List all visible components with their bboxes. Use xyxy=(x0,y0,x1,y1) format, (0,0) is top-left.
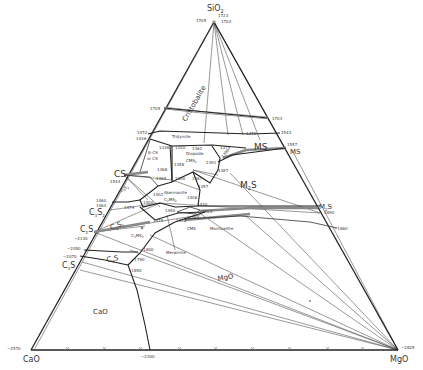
svg-text:1362: 1362 xyxy=(192,146,203,151)
label-ms-edge: MS xyxy=(290,148,301,156)
svg-text:~1790: ~1790 xyxy=(131,257,145,262)
label-diopside-formula: CMS2 xyxy=(186,158,197,164)
svg-text:~2130: ~2130 xyxy=(74,236,88,241)
label-tridymite: Tridymite xyxy=(171,134,191,139)
label-ms: MS xyxy=(254,142,268,152)
label-cs: CS xyxy=(114,169,126,179)
label-monticellite: Monticellite xyxy=(210,226,234,231)
svg-text:1387: 1387 xyxy=(218,168,229,173)
svg-text:1498: 1498 xyxy=(176,218,187,223)
label-c3s: C3S xyxy=(62,261,75,271)
label-cao-field: CaO xyxy=(93,308,108,316)
vertex-labels: SiO2 CaO MgO xyxy=(23,4,408,364)
svg-text:~1800: ~1800 xyxy=(140,247,154,252)
svg-text:1705: 1705 xyxy=(196,18,207,23)
label-cms: CMS xyxy=(187,226,196,231)
svg-text:1543: 1543 xyxy=(281,130,292,135)
svg-text:1705: 1705 xyxy=(150,106,161,111)
label-akermanite: Akermanite xyxy=(164,190,188,195)
svg-text:1436: 1436 xyxy=(136,136,147,141)
svg-text:1368: 1368 xyxy=(157,167,168,172)
svg-text:1470: 1470 xyxy=(137,130,148,135)
svg-text:~2825: ~2825 xyxy=(401,345,415,350)
vertex-temperatures: 1705 1723 1703 ~2570 ~2825 ~2300 xyxy=(7,13,415,359)
label-diopside: Diopside xyxy=(186,151,204,156)
svg-text:1357: 1357 xyxy=(198,184,209,189)
svg-text:~2300: ~2300 xyxy=(141,354,155,359)
vertex-mgo: MgO xyxy=(390,355,408,364)
svg-text:1464: 1464 xyxy=(96,203,107,208)
svg-text:1367: 1367 xyxy=(192,176,203,181)
svg-text:1703: 1703 xyxy=(272,116,283,121)
svg-text:~2570: ~2570 xyxy=(7,346,21,351)
svg-text:~2070: ~2070 xyxy=(63,254,77,259)
svg-text:1544: 1544 xyxy=(110,179,121,184)
label-c3s2: C3S2 xyxy=(89,208,105,218)
svg-text:1490: 1490 xyxy=(165,208,176,213)
svg-text:1479: 1479 xyxy=(124,205,135,210)
label-c2s-field: C2S xyxy=(109,220,124,233)
svg-text:~1860: ~1860 xyxy=(334,226,348,231)
triangle-edges xyxy=(31,22,398,350)
svg-text:1400: 1400 xyxy=(143,200,154,205)
label-c3ms2: C3MS2 xyxy=(131,233,144,239)
label-c3s2-field: C3S2 xyxy=(119,184,130,194)
svg-text:1358: 1358 xyxy=(174,162,185,167)
svg-text:1460: 1460 xyxy=(189,215,200,220)
svg-text:1703: 1703 xyxy=(221,19,232,24)
svg-text:1406: 1406 xyxy=(187,195,198,200)
base-tick-marks xyxy=(66,347,364,349)
label-c2s: C2S xyxy=(80,225,93,235)
ternary-phase-diagram: SiO2 CaO MgO 1705 1723 1703 ~2570 ~2825 … xyxy=(0,0,423,370)
label-beta-cs: β–CS xyxy=(148,150,158,155)
svg-text:1470: 1470 xyxy=(246,131,257,136)
svg-text:~2050: ~2050 xyxy=(67,246,81,251)
tie-lines-mgo xyxy=(80,150,398,350)
label-akermanite-formula: C2MS2 xyxy=(164,197,177,203)
svg-text:1575: 1575 xyxy=(153,218,164,223)
svg-text:1723: 1723 xyxy=(218,13,229,18)
svg-text:1391: 1391 xyxy=(206,160,217,165)
svg-text:1320: 1320 xyxy=(175,145,186,150)
phase-field-labels: Cristobalite Tridymite MS M2S Diopside C… xyxy=(93,84,268,316)
svg-text:1402: 1402 xyxy=(153,192,164,197)
label-merwinite: Merwinite xyxy=(166,250,186,255)
svg-text:1430: 1430 xyxy=(197,202,208,207)
svg-text:1503: 1503 xyxy=(202,209,213,214)
label-cristobalite: Cristobalite xyxy=(181,84,208,123)
label-mgo-field: MgO xyxy=(217,272,235,283)
svg-text:1336: 1336 xyxy=(159,145,170,150)
svg-text:1350: 1350 xyxy=(175,176,186,181)
svg-text:1557: 1557 xyxy=(287,142,298,147)
svg-text:1365: 1365 xyxy=(156,176,167,181)
svg-text:~1850: ~1850 xyxy=(128,268,142,273)
label-alpha-cs: or CS xyxy=(147,156,158,161)
vertex-cao: CaO xyxy=(23,355,40,364)
data-points xyxy=(122,21,310,302)
svg-text:1890: 1890 xyxy=(324,210,335,215)
label-m2s: M2S xyxy=(240,180,257,191)
